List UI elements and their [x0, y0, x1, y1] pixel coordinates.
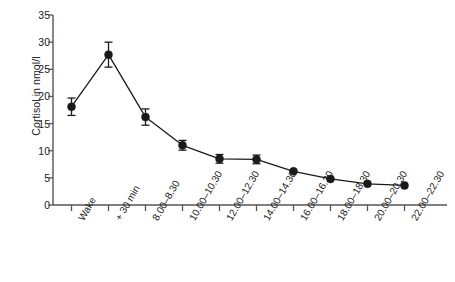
- data-point-marker: [253, 155, 261, 163]
- data-point-marker: [105, 51, 113, 59]
- data-point-marker: [179, 141, 187, 149]
- plot-area: [0, 0, 455, 282]
- data-point-marker: [142, 113, 150, 121]
- data-series: [68, 42, 409, 189]
- data-line: [72, 55, 405, 186]
- data-point-marker: [68, 103, 76, 111]
- cortisol-line-chart: Cortisol in nmol/l 05101520253035 Wake+ …: [0, 0, 455, 282]
- data-point-marker: [216, 155, 224, 163]
